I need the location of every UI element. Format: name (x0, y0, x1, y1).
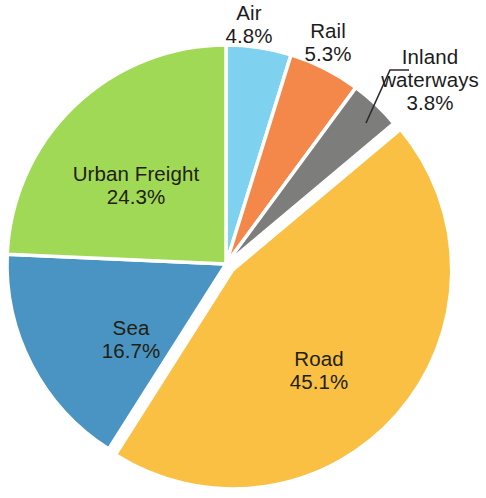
slice-label-urban-freight: Urban Freight 24.3% (48, 163, 224, 209)
slice-label-inland-waterways: Inland waterways 3.8% (378, 46, 482, 115)
slice-label-road-name: Road (262, 348, 376, 371)
slice-label-inland-waterways-name-line2: waterways (378, 69, 482, 92)
slice-label-air-name: Air (205, 2, 293, 25)
slice-label-air-value: 4.8% (205, 25, 293, 48)
slice-label-inland-waterways-value: 3.8% (378, 92, 482, 115)
pie-slice-urban-freight (7, 45, 226, 264)
slice-label-rail: Rail 5.3% (285, 20, 371, 66)
slice-label-inland-waterways-name-line1: Inland (378, 46, 482, 69)
pie-chart: Air 4.8% Rail 5.3% Inland waterways 3.8%… (0, 0, 486, 498)
slice-label-road-value: 45.1% (262, 371, 376, 394)
slice-label-air: Air 4.8% (205, 2, 293, 48)
slice-label-sea-name: Sea (78, 317, 184, 340)
slice-label-road: Road 45.1% (262, 348, 376, 394)
slice-label-rail-name: Rail (285, 20, 371, 43)
slice-label-sea: Sea 16.7% (78, 317, 184, 363)
slice-label-urban-freight-value: 24.3% (48, 186, 224, 209)
slice-label-urban-freight-name: Urban Freight (48, 163, 224, 186)
slice-label-rail-value: 5.3% (285, 43, 371, 66)
slice-label-sea-value: 16.7% (78, 340, 184, 363)
